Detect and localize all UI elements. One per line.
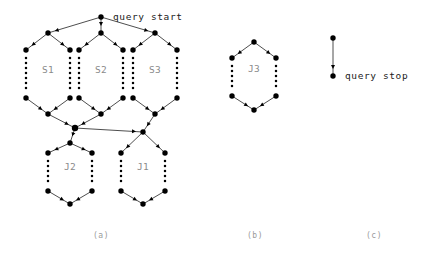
edge-arrowhead <box>91 106 95 110</box>
graph-diagram: S1S2S3J2J1J3 query start query stop (a)(… <box>0 0 422 261</box>
region-label-j1: J1 <box>137 161 149 172</box>
graph-node-j3-left-b <box>229 93 234 98</box>
graph-edge <box>79 33 101 50</box>
graph-node-start <box>98 14 103 19</box>
dotted-edge-marker <box>78 57 81 60</box>
graph-edge <box>26 98 48 114</box>
graph-edge <box>143 132 165 153</box>
graph-edge <box>254 42 276 58</box>
dotted-edge-marker <box>25 82 28 85</box>
dotted-edge-marker <box>164 170 167 173</box>
dotted-edge-marker <box>176 62 179 65</box>
graph-node-j1-right-t <box>162 150 167 155</box>
edge-arrowhead <box>107 106 111 110</box>
dotted-edge-marker <box>176 77 179 80</box>
dotted-edge-marker <box>47 175 50 178</box>
graph-edge <box>48 191 70 204</box>
graph-node-s2-left-b <box>76 95 81 100</box>
panel-label-a: (a) <box>93 231 109 240</box>
graph-node-s3-left-t <box>130 47 135 52</box>
graph-node-stop-bot <box>330 73 335 78</box>
dotted-edge-marker <box>275 85 278 88</box>
graph-node-j2-left-b <box>45 188 50 193</box>
dotted-edge-marker <box>69 72 72 75</box>
dotted-edge-marker <box>91 170 94 173</box>
graph-edge <box>232 42 254 58</box>
edge-arrowhead <box>161 106 165 110</box>
dotted-edge-marker <box>120 180 123 183</box>
edge-arrowhead <box>145 106 149 110</box>
region-label-j3: J3 <box>248 63 260 74</box>
dotted-edge-marker <box>164 165 167 168</box>
graph-node-j1-bot <box>140 201 145 206</box>
graph-edge <box>133 98 155 114</box>
edge-arrowhead <box>147 122 151 126</box>
dotted-edge-marker <box>78 82 81 85</box>
dotted-edge-marker <box>231 65 234 68</box>
dotted-edge-marker <box>47 160 50 163</box>
dotted-edge-marker <box>231 75 234 78</box>
graph-node-j1-top <box>140 129 145 134</box>
dotted-edge-marker <box>91 180 94 183</box>
dotted-edge-marker <box>120 170 123 173</box>
graph-node-j2-right-t <box>89 150 94 155</box>
graph-node-s1-right-t <box>67 47 72 52</box>
graph-node-s3-right-b <box>174 95 179 100</box>
dotted-edge-marker <box>275 70 278 73</box>
graph-node-j3-top <box>251 39 256 44</box>
dotted-edge-marker <box>78 62 81 65</box>
dotted-edge-marker <box>132 72 135 75</box>
graph-node-s1-right-b <box>67 95 72 100</box>
graph-edge <box>79 98 101 114</box>
graph-node-cross <box>72 125 78 131</box>
graph-edge <box>254 96 276 110</box>
edge-layer <box>26 17 333 204</box>
dotted-edge-marker <box>78 77 81 80</box>
region-label-j2: J2 <box>64 161 76 172</box>
graph-node-s3-left-b <box>130 95 135 100</box>
dotted-edge-marker <box>164 180 167 183</box>
dotted-edge-marker <box>25 87 28 90</box>
edge-arrowhead <box>99 22 103 26</box>
dotted-edge-marker <box>275 80 278 83</box>
graph-edge <box>48 114 75 128</box>
dotted-edge-marker <box>25 62 28 65</box>
dotted-edge-marker <box>122 67 125 70</box>
dotted-edge-marker <box>132 82 135 85</box>
edge-arrowhead <box>54 106 58 110</box>
graph-edge <box>121 132 143 153</box>
graph-node-s3-right-t <box>174 47 179 52</box>
dotted-edge-marker <box>69 77 72 80</box>
dotted-edge-marker <box>164 175 167 178</box>
dotted-edge-marker <box>132 67 135 70</box>
dotted-edge-marker <box>122 77 125 80</box>
dotted-edge-marker <box>176 82 179 85</box>
edge-arrowhead <box>72 132 76 136</box>
panel-label-c: (c) <box>366 231 382 240</box>
dotted-edge-marker <box>176 57 179 60</box>
dotted-edge-marker <box>69 62 72 65</box>
edge-arrowhead <box>132 129 136 133</box>
dotted-edge-marker <box>231 80 234 83</box>
dotted-edge-marker <box>120 165 123 168</box>
graph-edge <box>101 33 123 50</box>
graph-node-j2-left-t <box>45 150 50 155</box>
edge-arrowhead <box>38 106 42 110</box>
graph-node-j3-left-t <box>229 55 234 60</box>
panel-label-b: (b) <box>247 231 263 240</box>
graph-node-j3-bot <box>251 107 256 112</box>
graph-edge <box>232 96 254 110</box>
dotted-edge-marker <box>78 72 81 75</box>
dotted-edge-marker <box>91 165 94 168</box>
dotted-edge-marker <box>231 70 234 73</box>
graph-node-s3-bot <box>152 111 157 116</box>
dotted-edge-marker <box>47 165 50 168</box>
dotted-edge-marker <box>47 170 50 173</box>
graph-node-s2-top <box>98 30 103 35</box>
dotted-edge-marker <box>122 87 125 90</box>
graph-node-s1-top <box>45 30 50 35</box>
graph-node-j1-right-b <box>162 188 167 193</box>
edge-arrowhead <box>266 50 270 54</box>
dotted-edge-marker <box>69 67 72 70</box>
dotted-edge-marker <box>231 85 234 88</box>
